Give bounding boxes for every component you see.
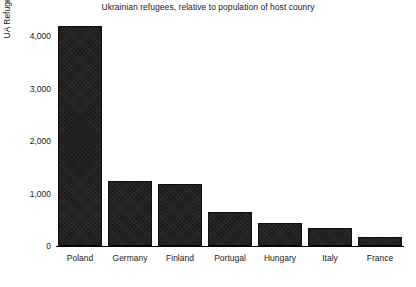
y-tick-label: 2,000	[5, 136, 51, 146]
y-tick-label: 3,000	[5, 84, 51, 94]
bar	[58, 26, 102, 246]
y-axis-tick-labels: 01,0002,0003,0004,000	[0, 0, 51, 287]
y-tick-label: 0	[5, 241, 51, 251]
x-tick-label: France	[350, 252, 410, 264]
bar	[308, 228, 352, 246]
x-axis-line	[56, 246, 404, 247]
y-tick-label: 1,000	[5, 189, 51, 199]
bar	[258, 223, 302, 246]
bar-chart: Ukrainian refugees, relative to populati…	[0, 0, 416, 287]
bar	[358, 237, 402, 246]
bar-series: PolandGermanyFinlandPortugalHungaryItaly…	[56, 0, 404, 287]
y-tick-label: 4,000	[5, 31, 51, 41]
bar	[158, 184, 202, 246]
bar	[108, 181, 152, 246]
bar	[208, 212, 252, 246]
